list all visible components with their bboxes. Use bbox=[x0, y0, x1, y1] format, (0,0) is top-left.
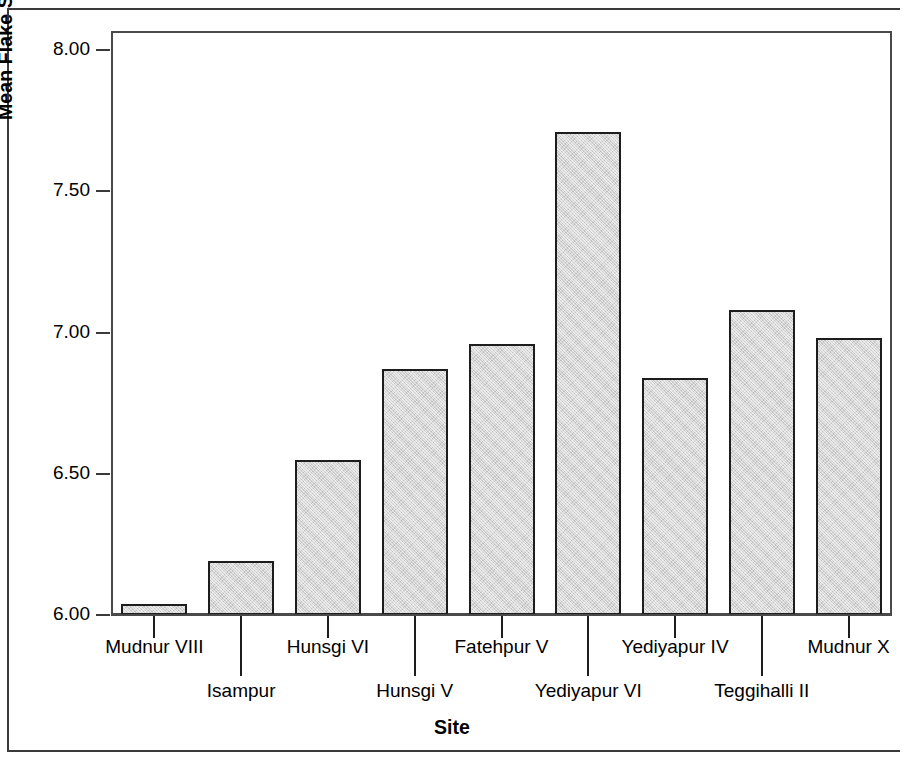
y-tick-label: 6.50 bbox=[0, 462, 90, 484]
bar-fill-texture bbox=[297, 462, 359, 613]
y-axis-title: Mean Flake Scar Width to Length Ratio bbox=[0, 0, 17, 120]
x-tick-label: Hunsgi V bbox=[376, 680, 453, 702]
bar-fill-texture bbox=[384, 371, 446, 613]
y-tick-label: 7.00 bbox=[0, 321, 90, 343]
x-tick-label: Yediyapur VI bbox=[535, 680, 642, 702]
figure: Mean Flake Scar Width to Length Ratio 6.… bbox=[0, 0, 904, 757]
x-tick-mark bbox=[414, 616, 416, 676]
y-tick-mark bbox=[96, 49, 110, 51]
y-tick-mark bbox=[96, 473, 110, 475]
x-axis-title: Site bbox=[0, 716, 904, 739]
x-tick-mark bbox=[587, 616, 589, 676]
bar-fill-texture bbox=[818, 340, 880, 613]
bar-fill-texture bbox=[471, 346, 533, 613]
bar bbox=[295, 460, 361, 615]
x-tick-label: Mudnur X bbox=[807, 636, 889, 658]
bar bbox=[555, 132, 621, 615]
x-tick-label: Mudnur VIII bbox=[105, 636, 203, 658]
bar bbox=[642, 378, 708, 615]
bar bbox=[469, 344, 535, 615]
y-tick-mark bbox=[96, 190, 110, 192]
x-tick-mark bbox=[153, 616, 155, 638]
bar-fill-texture bbox=[644, 380, 706, 613]
y-tick-label: 6.00 bbox=[0, 603, 90, 625]
bar-fill-texture bbox=[731, 312, 793, 613]
bar-fill-texture bbox=[557, 134, 619, 613]
bar-fill-texture bbox=[210, 563, 272, 613]
x-tick-label: Yediyapur IV bbox=[622, 636, 729, 658]
x-tick-mark bbox=[761, 616, 763, 676]
bar bbox=[208, 561, 274, 615]
y-tick-label: 7.50 bbox=[0, 179, 90, 201]
bar bbox=[816, 338, 882, 615]
bar bbox=[382, 369, 448, 615]
x-tick-label: Fatehpur V bbox=[455, 636, 549, 658]
y-tick-mark bbox=[96, 614, 110, 616]
x-tick-label: Hunsgi VI bbox=[287, 636, 369, 658]
x-tick-label: Teggihalli II bbox=[714, 680, 809, 702]
x-tick-label: Isampur bbox=[207, 680, 276, 702]
x-tick-mark bbox=[501, 616, 503, 638]
x-tick-mark bbox=[848, 616, 850, 638]
bar bbox=[729, 310, 795, 615]
x-tick-mark bbox=[327, 616, 329, 638]
bar-fill-texture bbox=[123, 606, 185, 613]
x-tick-mark bbox=[240, 616, 242, 676]
y-tick-label: 8.00 bbox=[0, 38, 90, 60]
y-tick-mark bbox=[96, 332, 110, 334]
x-tick-mark bbox=[674, 616, 676, 638]
